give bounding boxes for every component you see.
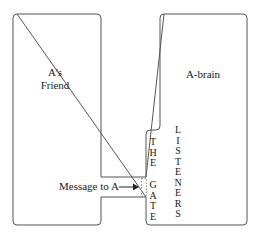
listeners-letter: E	[175, 188, 181, 199]
brain-label: A-brain	[178, 68, 228, 81]
gate-label-gate: G A T E	[148, 180, 158, 222]
friend-label: A’s Friend	[30, 66, 80, 92]
gate-label-the: T H E	[148, 137, 158, 169]
listeners-label: L I S T E N E R S	[173, 125, 183, 220]
message-arrow-head	[133, 184, 139, 191]
listeners-letter: S	[175, 146, 181, 157]
friend-label-line1: A’s	[30, 66, 80, 79]
message-label: Message to A	[59, 180, 119, 193]
listeners-letter: L	[175, 125, 181, 136]
gate-letter: E	[150, 158, 156, 169]
gate-letter: E	[150, 212, 156, 223]
friend-label-line2: Friend	[30, 79, 80, 92]
gate-letter: G	[149, 180, 156, 191]
gate-letter: T	[150, 137, 156, 148]
listeners-letter: E	[175, 167, 181, 178]
friend-box-outline	[13, 14, 146, 225]
brain-box-outline	[146, 14, 247, 225]
gate-letter: T	[150, 201, 156, 212]
listeners-letter: S	[175, 209, 181, 220]
diagram-canvas	[0, 0, 261, 239]
